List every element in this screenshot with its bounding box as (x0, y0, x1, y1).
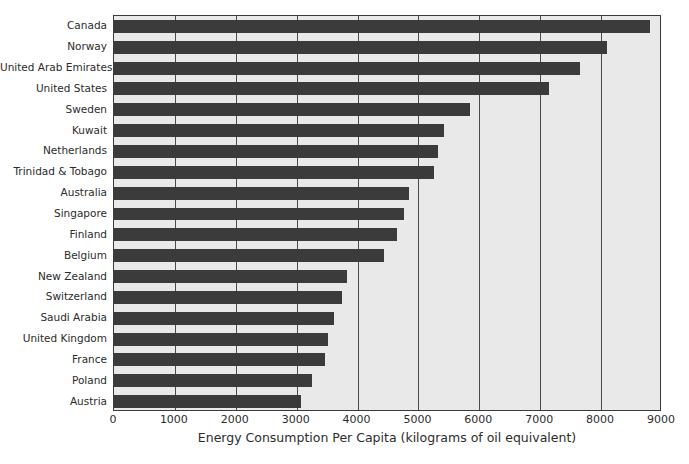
bar-chart: CanadaNorwayUnited Arab EmiratesUnited S… (0, 0, 689, 464)
bar-row (114, 395, 660, 408)
x-tick-label: 4000 (343, 413, 371, 427)
bar-row (114, 270, 660, 283)
bar-row (114, 291, 660, 304)
bar (114, 291, 342, 304)
category-label: Singapore (0, 207, 107, 219)
bar (114, 333, 328, 346)
bar (114, 41, 607, 54)
category-label: Switzerland (0, 290, 107, 302)
bar-row (114, 353, 660, 366)
x-axis-title: Energy Consumption Per Capita (kilograms… (113, 430, 661, 446)
x-tick-label: 1000 (160, 413, 188, 427)
bar (114, 395, 301, 408)
bar-row (114, 41, 660, 54)
category-label: United Arab Emirates (0, 61, 107, 73)
category-label: Australia (0, 186, 107, 198)
category-label: Norway (0, 40, 107, 52)
bar-row (114, 82, 660, 95)
category-label: Netherlands (0, 144, 107, 156)
bar (114, 62, 580, 75)
x-tick-label: 2000 (221, 413, 249, 427)
bar-row (114, 208, 660, 221)
category-label: Finland (0, 228, 107, 240)
bar (114, 145, 438, 158)
bar (114, 208, 404, 221)
category-label: France (0, 353, 107, 365)
category-label: New Zealand (0, 270, 107, 282)
bar (114, 228, 397, 241)
bar (114, 103, 470, 116)
category-label: Trinidad & Tobago (0, 165, 107, 177)
bar (114, 187, 409, 200)
category-label: Belgium (0, 249, 107, 261)
bar (114, 166, 434, 179)
category-label: Kuwait (0, 124, 107, 136)
bar-row (114, 228, 660, 241)
x-tick-label: 0 (110, 413, 117, 427)
bar (114, 374, 312, 387)
category-label: Poland (0, 374, 107, 386)
bar-row (114, 374, 660, 387)
bar-row (114, 187, 660, 200)
bar (114, 82, 549, 95)
category-label: United States (0, 82, 107, 94)
bar (114, 353, 325, 366)
bar-row (114, 166, 660, 179)
x-tick-label: 8000 (586, 413, 614, 427)
category-label: Sweden (0, 103, 107, 115)
bar (114, 312, 334, 325)
bar (114, 20, 650, 33)
bar-row (114, 124, 660, 137)
bar-row (114, 103, 660, 116)
value-axis-ticks: 0100020003000400050006000700080009000 (0, 413, 689, 429)
x-tick-label: 6000 (464, 413, 492, 427)
bars-layer (114, 16, 660, 410)
bar-row (114, 312, 660, 325)
bar (114, 249, 384, 262)
bar-row (114, 249, 660, 262)
bar-row (114, 145, 660, 158)
bar (114, 270, 347, 283)
bar (114, 124, 444, 137)
category-label: Canada (0, 19, 107, 31)
category-label: Austria (0, 395, 107, 407)
x-tick-label: 3000 (282, 413, 310, 427)
bar-row (114, 20, 660, 33)
category-axis-labels: CanadaNorwayUnited Arab EmiratesUnited S… (0, 15, 107, 411)
x-tick-label: 5000 (403, 413, 431, 427)
category-label: United Kingdom (0, 332, 107, 344)
category-label: Saudi Arabia (0, 311, 107, 323)
x-tick-label: 7000 (525, 413, 553, 427)
x-tick-label: 9000 (647, 413, 675, 427)
bar-row (114, 333, 660, 346)
plot-area (113, 15, 661, 411)
bar-row (114, 62, 660, 75)
